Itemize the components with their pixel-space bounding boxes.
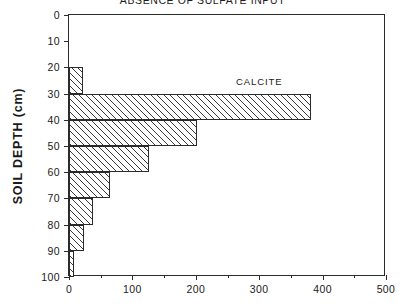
bar <box>69 225 84 251</box>
series-annotation-calcite: CALCITE <box>236 75 282 86</box>
x-minor-tick <box>101 275 102 278</box>
x-tick-label: 100 <box>123 283 142 295</box>
y-tick-label: 90 <box>48 245 60 257</box>
y-axis-title: SOIL DEPTH (cm) <box>11 61 25 231</box>
x-tick <box>196 275 197 280</box>
y-tick-label: 10 <box>48 35 60 47</box>
y-tick <box>64 41 69 42</box>
x-tick-label: 300 <box>250 283 269 295</box>
y-tick-label: 0 <box>54 9 60 21</box>
x-minor-tick <box>354 275 355 278</box>
y-tick-label: 50 <box>48 140 60 152</box>
chart-title: ABSENCE OF SULFATE INPUT <box>0 0 405 6</box>
y-tick-label: 40 <box>48 114 60 126</box>
bar <box>69 172 110 198</box>
x-tick <box>132 275 133 280</box>
bar <box>69 120 197 146</box>
y-tick-label: 70 <box>48 192 60 204</box>
x-tick-label: 200 <box>186 283 205 295</box>
bar <box>69 67 83 93</box>
y-tick-label: 20 <box>48 61 60 73</box>
x-tick <box>386 275 387 280</box>
x-tick-label: 400 <box>313 283 332 295</box>
x-minor-tick <box>228 275 229 278</box>
x-minor-tick <box>291 275 292 278</box>
y-tick-label: 100 <box>41 271 60 283</box>
y-tick-label: 60 <box>48 166 60 178</box>
bar <box>69 94 311 120</box>
x-tick <box>323 275 324 280</box>
y-tick <box>64 15 69 16</box>
chart-figure: ABSENCE OF SULFATE INPUT SOIL DEPTH (cm)… <box>0 0 405 304</box>
x-tick-label: 0 <box>66 283 72 295</box>
y-tick-label: 80 <box>48 219 60 231</box>
y-tick-label: 30 <box>48 88 60 100</box>
x-tick <box>259 275 260 280</box>
plot-area: 0102030405060708090100 0100200300400500 … <box>68 14 385 276</box>
x-tick-label: 500 <box>377 283 396 295</box>
x-minor-tick <box>164 275 165 278</box>
bar <box>69 198 93 224</box>
bar <box>69 251 74 277</box>
bar <box>69 146 149 172</box>
